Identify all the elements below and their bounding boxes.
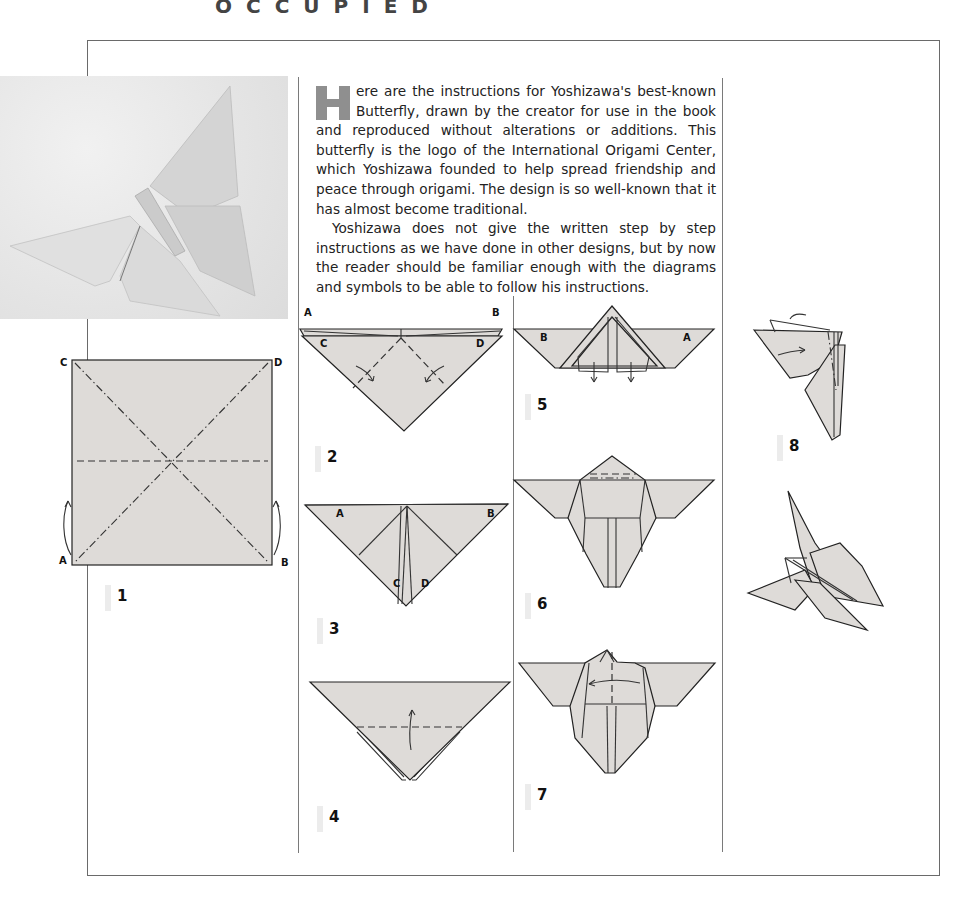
corner-label-b: B — [492, 307, 500, 318]
corner-label-d: D — [274, 357, 282, 368]
corner-label-d: D — [421, 578, 429, 589]
step-1-diagram — [60, 355, 290, 570]
step-number-3: 3 — [329, 620, 339, 638]
step-3-diagram — [302, 502, 512, 612]
corner-label-a: A — [59, 555, 67, 566]
step-5-diagram — [510, 300, 720, 390]
intro-paragraph-2: Yoshizawa does not give the written step… — [316, 219, 716, 297]
intro-paragraph-1: ere are the instructions for Yoshizawa's… — [316, 82, 716, 219]
butterfly-photo — [0, 76, 288, 319]
corner-label-b: B — [281, 557, 289, 568]
corner-label-c: C — [60, 357, 67, 368]
corner-label-c: C — [320, 338, 327, 349]
corner-label-a: A — [336, 508, 344, 519]
corner-label-b: B — [487, 508, 495, 519]
step-number-2: 2 — [327, 448, 337, 466]
final-butterfly-diagram — [745, 488, 895, 643]
column-divider-1 — [298, 77, 299, 853]
corner-label-b: B — [540, 332, 548, 343]
intro-text: ere are the instructions for Yoshizawa's… — [316, 82, 716, 298]
step-number-5: 5 — [537, 396, 547, 414]
step-number-6: 6 — [537, 595, 547, 613]
step-8-diagram — [750, 310, 860, 445]
corner-label-c: C — [393, 578, 400, 589]
dropcap-h — [316, 86, 350, 120]
step-6-diagram — [510, 452, 720, 602]
step-number-7: 7 — [537, 786, 547, 804]
page-header-fragment: OCCUPIED — [215, 0, 442, 18]
step-7-diagram — [515, 648, 725, 788]
corner-label-a: A — [683, 332, 691, 343]
step-number-4: 4 — [329, 808, 339, 826]
step-4-diagram — [302, 680, 512, 790]
corner-label-d: D — [476, 338, 484, 349]
butterfly-photo-icon — [0, 76, 288, 319]
step-number-8: 8 — [789, 437, 799, 455]
corner-label-a: A — [304, 307, 312, 318]
step-number-1: 1 — [117, 587, 127, 605]
